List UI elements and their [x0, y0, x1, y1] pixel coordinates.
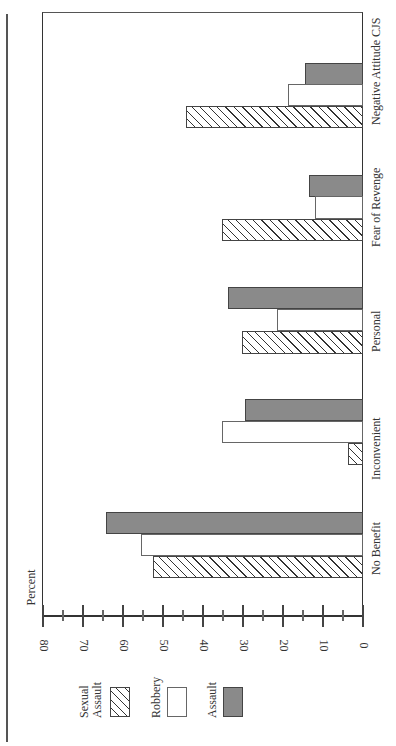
legend-label-robbery: Robbery: [150, 677, 163, 718]
tick-label-60: 60: [116, 634, 131, 658]
legend-label-sexual-line2: Assault: [91, 682, 104, 718]
tick-25: [262, 610, 264, 621]
bar-inconvenient-assault: [245, 399, 363, 421]
tick-20: [282, 605, 284, 627]
tick-label-10: 10: [316, 634, 331, 658]
tick-70: [82, 605, 84, 627]
bar-personal-robbery: [277, 309, 363, 331]
legend-label-assault: Assault: [206, 682, 219, 718]
tick-label-30: 30: [236, 634, 251, 658]
tick-60: [122, 605, 124, 627]
tick-65: [102, 610, 104, 621]
tick-15: [302, 610, 304, 621]
bar-fear-of-revenge-sexual-assault: [222, 219, 363, 241]
category-label-no-benefit: No Benefit: [369, 522, 384, 575]
tick-label-80: 80: [36, 634, 51, 658]
bar-personal-sexual-assault: [242, 331, 363, 354]
tick-5: [342, 610, 344, 621]
bar-negative-attitude-robbery: [288, 84, 363, 106]
category-label-fear-of-revenge: Fear of Revenge: [369, 168, 384, 247]
tick-label-50: 50: [156, 634, 171, 658]
legend-swatch-robbery: [167, 687, 187, 717]
tick-35: [222, 610, 224, 621]
tick-label-70: 70: [76, 634, 91, 658]
tick-75: [62, 610, 64, 621]
legend-swatch-assault: [223, 687, 243, 717]
tick-label-0: 0: [356, 634, 371, 658]
bar-fear-of-revenge-robbery: [315, 196, 363, 219]
category-label-inconvenient: Inconvenient: [369, 417, 384, 480]
tick-30: [242, 605, 244, 627]
tick-10: [322, 605, 324, 627]
left-rule: [6, 14, 8, 742]
legend-swatch-sexual-assault: [110, 687, 130, 717]
tick-45: [182, 610, 184, 621]
tick-55: [142, 610, 144, 621]
bar-negative-attitude-assault: [305, 63, 363, 85]
bar-fear-of-revenge-assault: [309, 175, 363, 197]
tick-40: [202, 605, 204, 627]
bar-inconvenient-sexual-assault: [348, 443, 363, 465]
tick-label-40: 40: [196, 634, 211, 658]
bar-no-benefit-assault: [106, 512, 363, 534]
tick-50: [162, 605, 164, 627]
bar-no-benefit-sexual-assault: [153, 556, 363, 578]
bar-inconvenient-robbery: [222, 421, 363, 443]
tick-80: [42, 605, 44, 627]
tick-label-20: 20: [276, 634, 291, 658]
category-label-negative-attitude-cjs: Negative Attitude CJS: [369, 18, 384, 125]
axis-title-percent: Percent: [24, 570, 39, 606]
bar-no-benefit-robbery: [141, 534, 363, 556]
category-label-personal: Personal: [369, 311, 384, 352]
bar-negative-attitude-sexual-assault: [186, 106, 363, 128]
bar-personal-assault: [228, 287, 363, 309]
tick-0: [362, 605, 364, 627]
